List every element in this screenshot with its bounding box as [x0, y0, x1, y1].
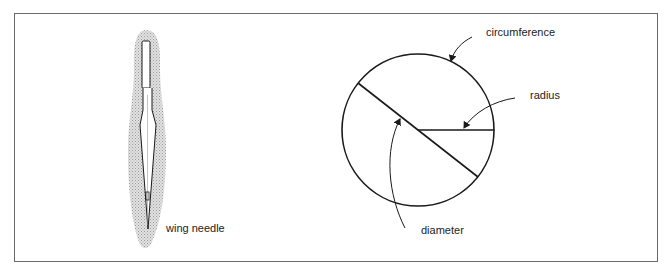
- circumference-arrow: [451, 37, 472, 61]
- wing-needle-illustration: [128, 30, 166, 248]
- needle-shank: [142, 41, 150, 88]
- circumference-label: circumference: [486, 26, 555, 38]
- diagram-canvas: [0, 0, 670, 264]
- diameter-arrow: [390, 119, 405, 228]
- circle-illustration: [342, 37, 515, 228]
- diameter-label: diameter: [421, 224, 464, 236]
- radius-label: radius: [530, 89, 560, 101]
- wing-needle-label: wing needle: [166, 222, 225, 234]
